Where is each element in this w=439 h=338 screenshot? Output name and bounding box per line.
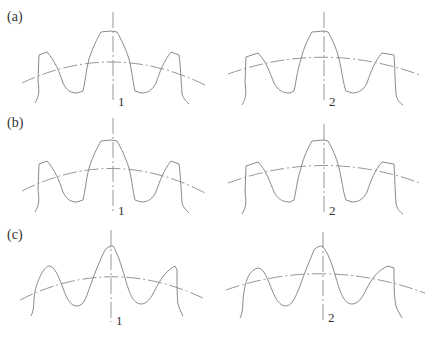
gear-panel-b2: 2 [228, 124, 420, 218]
panel-label-2: 2 [328, 310, 335, 325]
row-a: (a) 1 2 [7, 9, 420, 109]
panel-label-2: 2 [329, 94, 336, 109]
panel-label-1: 1 [118, 203, 125, 218]
gear-panel-c1: 1 [20, 230, 205, 328]
pitch-circle [22, 168, 205, 193]
row-label-c: (c) [7, 227, 23, 243]
row-label-b: (b) [7, 115, 24, 131]
panel-label-2: 2 [329, 203, 336, 218]
tooth-profile [35, 31, 189, 104]
pitch-circle [226, 274, 425, 293]
tooth-profile [31, 246, 183, 316]
gear-panel-a1: 1 [22, 12, 205, 109]
tooth-profile [242, 31, 403, 105]
gear-panel-c2: 2 [226, 232, 425, 325]
row-c: (c) 1 2 [7, 227, 425, 328]
pitch-circle [22, 62, 205, 85]
gear-panel-b1: 1 [22, 118, 205, 218]
panel-label-1: 1 [118, 94, 125, 109]
gear-tooth-diagram: (a) 1 2 (b) 1 2 (c) [0, 0, 439, 338]
panel-label-1: 1 [116, 313, 123, 328]
tooth-profile [240, 246, 402, 318]
tooth-profile [35, 140, 189, 213]
row-b: (b) 1 2 [7, 115, 420, 218]
gear-panel-a2: 2 [228, 12, 420, 109]
row-label-a: (a) [7, 9, 23, 25]
tooth-profile [242, 140, 403, 214]
